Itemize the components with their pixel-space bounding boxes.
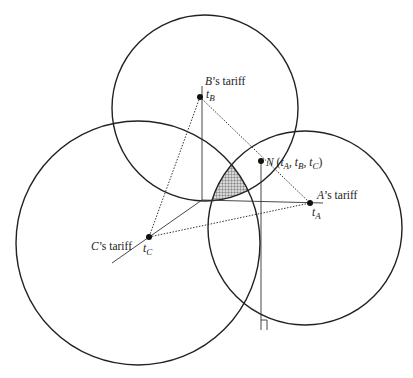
point-n [258, 158, 264, 164]
circle-c [16, 121, 260, 365]
label-n-point: N (tA, tB, tC) [265, 156, 323, 171]
label-c-tariff: C’s tariff [91, 240, 132, 252]
shaded-intersection-region [16, 121, 260, 365]
axis-a [202, 200, 323, 203]
point-t-c [146, 234, 152, 240]
right-angle-mark [261, 320, 267, 330]
tariff-diagram: B’s tariff tB N (tA, tB, tC) A’s tariff … [0, 0, 413, 378]
axes [112, 86, 323, 263]
axis-c [112, 200, 202, 263]
label-b-tariff: B’s tariff [205, 75, 246, 87]
point-t-b [197, 94, 203, 100]
label-t-a: tA [312, 206, 321, 221]
label-a-tariff: A’s tariff [316, 189, 358, 201]
circle-b [112, 15, 298, 201]
label-t-c: tC [143, 242, 153, 257]
label-t-b: tB [206, 88, 215, 103]
